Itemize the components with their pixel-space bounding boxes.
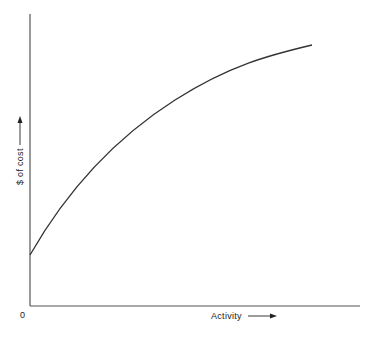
chart-canvas: 0 Activity $ of cost	[0, 0, 374, 337]
x-axis-label: Activity	[211, 311, 242, 321]
cost-curve	[30, 45, 312, 255]
y-axis-label: $ of cost	[15, 148, 25, 185]
origin-label: 0	[20, 310, 25, 320]
x-axis-arrow-icon	[248, 314, 277, 319]
y-axis-arrow-icon	[18, 116, 23, 145]
